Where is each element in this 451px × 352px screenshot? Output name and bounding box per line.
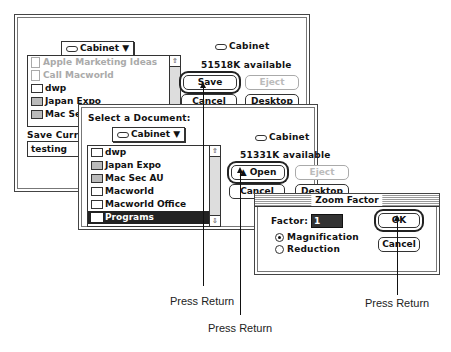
scroll-up-icon[interactable]: ⇧	[210, 146, 220, 157]
disk-icon	[66, 46, 78, 52]
callout-line-ok	[397, 219, 398, 295]
scrollbar[interactable]: ⇧ ⇩	[209, 146, 220, 226]
arrowhead-icon	[237, 167, 243, 173]
document-icon	[31, 57, 40, 68]
radio-selected-icon	[275, 233, 284, 242]
folder-icon	[91, 148, 103, 157]
folder-icon	[91, 213, 103, 222]
document-icon	[31, 70, 40, 81]
reduction-radio[interactable]: Reduction	[275, 244, 340, 254]
factor-label: Factor:	[271, 216, 308, 226]
callout-line-save	[203, 86, 204, 286]
save-available: 51518K available	[201, 60, 292, 70]
open-available: 51331K available	[240, 150, 331, 160]
list-item[interactable]: Apple Marketing Ideas	[28, 56, 180, 69]
open-disk-name: Cabinet	[255, 132, 309, 142]
zoom-factor-dialog: Zoom Factor Factor: 1 Magnification Redu…	[254, 193, 440, 275]
disk-icon	[255, 135, 267, 141]
eject-button[interactable]: Eject	[245, 75, 299, 90]
caption-ok: Press Return	[365, 297, 429, 309]
factor-input[interactable]: 1	[311, 214, 343, 228]
eject-button[interactable]: Eject	[295, 165, 349, 180]
scroll-down-icon[interactable]: ⇩	[210, 215, 220, 226]
folder-icon	[91, 200, 103, 209]
caption-save: Press Return	[170, 295, 234, 307]
dialog-title: Zoom Factor	[311, 194, 382, 206]
list-item-selected[interactable]: Programs	[88, 211, 220, 224]
list-item[interactable]: Call Macworld	[28, 69, 180, 82]
callout-line-open	[240, 171, 241, 315]
folder-icon	[91, 174, 103, 183]
open-file-list[interactable]: dwp Japan Expo Mac Sec AU Macworld Macwo…	[87, 145, 221, 227]
radio-icon	[275, 245, 284, 254]
scroll-up-icon[interactable]: ⇧	[170, 56, 180, 67]
arrowhead-icon	[200, 82, 206, 88]
folder-icon	[91, 161, 103, 170]
disk-icon	[215, 44, 227, 50]
list-item[interactable]: Macworld	[88, 185, 220, 198]
list-item[interactable]: Macworld Office	[88, 198, 220, 211]
cancel-button[interactable]: Cancel	[378, 237, 420, 252]
save-disk-name: Cabinet	[215, 41, 269, 51]
folder-icon	[31, 84, 43, 93]
list-item[interactable]: dwp	[88, 146, 220, 159]
magnification-radio[interactable]: Magnification	[275, 232, 359, 242]
list-item[interactable]: Mac Sec AU	[88, 172, 220, 185]
open-folder-popup[interactable]: Cabinet ▼	[112, 127, 185, 142]
save-button[interactable]: Save	[183, 75, 237, 90]
save-folder-popup[interactable]: Cabinet ▼	[61, 41, 134, 56]
folder-icon	[31, 110, 43, 119]
disk-icon	[117, 132, 129, 138]
folder-icon	[31, 97, 43, 106]
list-item[interactable]: dwp	[28, 82, 180, 95]
title-bar[interactable]: Zoom Factor	[255, 194, 439, 207]
list-item[interactable]: Japan Expo	[88, 159, 220, 172]
folder-icon	[91, 187, 103, 196]
caption-open: Press Return	[208, 322, 272, 334]
arrowhead-icon	[394, 215, 400, 221]
open-prompt: Select a Document:	[88, 113, 191, 123]
